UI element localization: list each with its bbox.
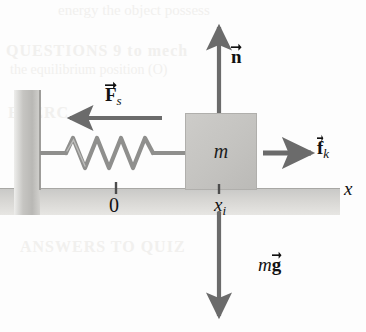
- ground-surface: [0, 189, 340, 215]
- weight-force-label: m g: [258, 255, 281, 274]
- background-text-line3: the equilibrium position (O): [10, 62, 167, 78]
- wall: [14, 90, 40, 215]
- background-text-line1: energy the object possess: [58, 2, 210, 19]
- tick-origin-label: 0: [109, 194, 119, 217]
- normal-force-label: n: [231, 47, 242, 66]
- mass-block-label: m: [186, 114, 256, 189]
- weight-force-prefix: m: [258, 254, 272, 275]
- vector-arrow-overbar-n: [231, 42, 242, 50]
- friction-force-label: f k: [317, 138, 329, 160]
- vector-arrow-overbar-fk: [317, 133, 323, 141]
- vector-arrow-overbar-g: [272, 250, 282, 258]
- tick-xi-subscript: i: [222, 203, 226, 218]
- spring: [40, 133, 186, 173]
- spring-force-label: F s: [105, 85, 122, 107]
- tick-xi-label: xi: [214, 194, 226, 219]
- background-text-line5: ANSWERS TO QUIZ: [20, 238, 186, 256]
- friction-force-subscript: k: [323, 146, 329, 161]
- physics-force-diagram: energy the object possess QUESTIONS 9 to…: [0, 0, 366, 332]
- x-axis-label: x: [344, 178, 352, 200]
- vector-arrow-overbar-fs: [105, 80, 117, 88]
- mass-block: m: [185, 113, 257, 190]
- background-text-line2: QUESTIONS 9 to mech: [6, 42, 188, 60]
- spring-force-subscript: s: [117, 93, 122, 108]
